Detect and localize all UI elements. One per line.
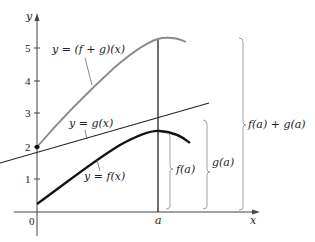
- g-line-leader: [85, 130, 87, 139]
- origin-label: 0: [29, 215, 35, 227]
- g-a-brace: [203, 120, 210, 209]
- f-curve: [37, 131, 190, 204]
- y-tick-4: 4: [25, 75, 31, 87]
- sum-a-brace: [239, 38, 246, 210]
- sum-curve-start-dot: [35, 145, 40, 150]
- y-tick-1: 1: [25, 173, 31, 185]
- sum-a-label: f(a) + g(a): [247, 118, 306, 131]
- y-axis-label: y: [25, 10, 33, 23]
- sum-curve-label: y = (f + g)(x): [51, 43, 125, 56]
- y-tick-3: 3: [25, 107, 31, 119]
- f-a-label: f(a): [175, 163, 195, 176]
- f-a-brace: [166, 133, 173, 209]
- y-tick-2: 2: [25, 141, 31, 153]
- sum-curve-leader: [85, 58, 92, 85]
- x-axis-label: x: [250, 214, 257, 227]
- y-axis-arrow-icon: [35, 13, 40, 21]
- function-sum-diagram: 1 2 3 4 5 y 0 x a y = (f + g)(x) y = g(x…: [0, 0, 315, 242]
- y-tick-5: 5: [25, 42, 31, 54]
- a-marker-label: a: [155, 214, 162, 227]
- g-line-label: y = g(x): [68, 117, 113, 130]
- g-a-label: g(a): [212, 156, 234, 169]
- f-curve-label: y = f(x): [83, 170, 125, 183]
